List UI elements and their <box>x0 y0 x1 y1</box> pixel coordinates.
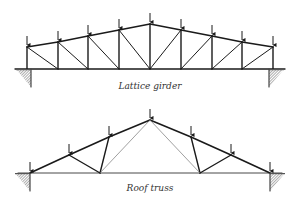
top-chord <box>212 36 242 42</box>
top-chord <box>58 36 88 42</box>
top-chord <box>150 24 181 30</box>
rafter <box>231 155 270 173</box>
diagonal-member <box>58 42 88 69</box>
tie-member <box>150 120 200 173</box>
roof-truss-caption: Roof truss <box>127 183 174 193</box>
diagonal-member <box>242 47 273 69</box>
diagonal-member <box>150 30 181 69</box>
web-member <box>200 155 231 173</box>
rafter <box>69 137 109 155</box>
tie-member <box>100 120 150 173</box>
web-member <box>69 155 100 173</box>
support-hatch <box>16 69 31 87</box>
support-hatch <box>269 69 284 87</box>
top-chord <box>242 42 273 47</box>
top-chord <box>88 30 119 36</box>
diagonal-member <box>88 36 119 69</box>
top-chord <box>27 42 58 47</box>
lattice-girder-caption: Lattice girder <box>118 81 181 91</box>
rafter <box>30 155 69 173</box>
roof-truss <box>15 109 285 191</box>
diagonal-member <box>181 36 212 69</box>
truss-diagram <box>0 0 301 202</box>
support-hatch <box>15 173 30 191</box>
web-member <box>100 137 109 173</box>
lattice-girder <box>15 13 285 87</box>
support-hatch <box>270 173 285 191</box>
rafter <box>109 120 150 137</box>
rafter <box>191 137 231 155</box>
diagonal-member <box>27 47 58 69</box>
top-chord <box>181 30 212 36</box>
diagonal-member <box>212 42 242 69</box>
web-member <box>191 137 200 173</box>
rafter <box>150 120 191 137</box>
top-chord <box>119 24 150 30</box>
diagonal-member <box>119 30 150 69</box>
